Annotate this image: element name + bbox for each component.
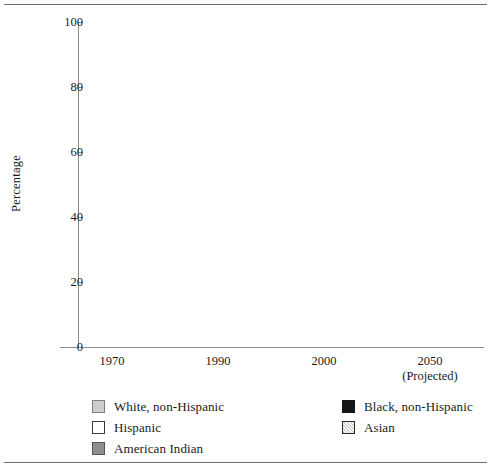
y-axis-tick-label: 40 bbox=[49, 211, 83, 224]
x-axis-label-sub: (Projected) bbox=[370, 369, 490, 384]
legend-swatch-hispanic-icon bbox=[92, 421, 105, 434]
x-axis-label-1990: 1990 bbox=[158, 354, 278, 369]
legend-swatch-black-nh-icon bbox=[342, 400, 355, 413]
y-axis-tick-label: 100 bbox=[49, 16, 83, 29]
legend-item-asian[interactable]: Asian bbox=[342, 417, 473, 438]
x-axis-label-main: 2050 bbox=[418, 354, 443, 368]
top-divider-rule bbox=[4, 4, 487, 5]
x-axis-line bbox=[60, 347, 484, 348]
legend-item-amindian[interactable]: American Indian bbox=[92, 438, 224, 459]
legend-label-hispanic: Hispanic bbox=[114, 420, 161, 436]
legend-swatch-white-nh-icon bbox=[92, 400, 105, 413]
legend-item-white-nh[interactable]: White, non-Hispanic bbox=[92, 396, 224, 417]
legend-swatch-asian-icon bbox=[342, 421, 355, 434]
y-axis-title: Percentage bbox=[9, 114, 24, 254]
legend-label-amindian: American Indian bbox=[114, 441, 203, 457]
x-axis-label-1970: 1970 bbox=[52, 354, 172, 369]
x-axis-label-main: 1990 bbox=[206, 354, 231, 368]
x-axis-label-main: 1970 bbox=[100, 354, 125, 368]
y-axis-tick-label: 20 bbox=[49, 276, 83, 289]
x-axis-label-2050: 2050(Projected) bbox=[370, 354, 490, 384]
x-axis-label-main: 2000 bbox=[312, 354, 337, 368]
legend-column-right: Black, non-HispanicAsian bbox=[342, 396, 473, 438]
legend-column-left: White, non-HispanicHispanicAmerican Indi… bbox=[92, 396, 224, 459]
legend-label-asian: Asian bbox=[364, 420, 395, 436]
stacked-bar-chart-figure: Percentage 020406080100 1970199020002050… bbox=[0, 8, 491, 458]
y-axis-tick-label: 80 bbox=[49, 81, 83, 94]
legend-label-white-nh: White, non-Hispanic bbox=[114, 399, 224, 415]
y-axis-tick-label: 60 bbox=[49, 146, 83, 159]
y-axis-tick-label: 0 bbox=[49, 341, 83, 354]
legend-item-black-nh[interactable]: Black, non-Hispanic bbox=[342, 396, 473, 417]
legend-label-black-nh: Black, non-Hispanic bbox=[364, 399, 473, 415]
legend-swatch-amindian-icon bbox=[92, 442, 105, 455]
bottom-divider-rule bbox=[4, 462, 487, 463]
y-axis-line bbox=[78, 22, 79, 348]
legend-item-hispanic[interactable]: Hispanic bbox=[92, 417, 224, 438]
x-axis-label-2000: 2000 bbox=[264, 354, 384, 369]
